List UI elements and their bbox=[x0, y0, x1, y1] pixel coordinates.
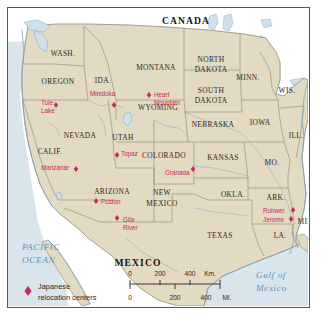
relocation-center-label: Granada bbox=[165, 169, 190, 176]
state-label: MO. bbox=[265, 158, 280, 167]
state-label: ARK. bbox=[267, 193, 286, 202]
state-label: DAKOTA bbox=[195, 65, 228, 74]
country-label-canada: CANADA bbox=[162, 15, 210, 26]
state-label: NEBRASKA bbox=[192, 120, 235, 129]
scale-km-unit: Km. bbox=[204, 270, 216, 277]
state-label: MINN. bbox=[236, 73, 259, 82]
state-label: ARIZONA bbox=[94, 187, 130, 196]
relocation-center-label: Gila bbox=[123, 216, 135, 223]
relocation-center-label: Manzanar bbox=[41, 164, 69, 171]
legend-label-line2: relocation centers bbox=[38, 293, 97, 302]
scale-mi-tick-200: 200 bbox=[169, 294, 180, 301]
relocation-center-label: Rohwer bbox=[263, 207, 285, 214]
relocation-center-label: Jerome bbox=[263, 216, 284, 223]
legend-label-line1: Japanese bbox=[38, 282, 70, 291]
state-label: KANSAS bbox=[207, 153, 239, 162]
state-label: LA. bbox=[274, 231, 287, 240]
relocation-center-label: Heart bbox=[154, 91, 170, 98]
state-label: NORTH bbox=[198, 55, 225, 64]
relocation-center-label: Poston bbox=[101, 198, 121, 205]
state-label: ILL. bbox=[289, 131, 304, 140]
state-label: MONTANA bbox=[136, 63, 176, 72]
ocean-label-gulf-line1: Gulf of bbox=[256, 270, 287, 280]
relocation-center-label: River bbox=[123, 224, 138, 231]
state-label: DAKOTA bbox=[195, 96, 228, 105]
ocean-label-pacific-line2: OCEAN bbox=[22, 255, 55, 265]
state-label: TEXAS bbox=[207, 231, 233, 240]
country-label-mexico: MEXICO bbox=[114, 257, 161, 268]
state-label: NEVADA bbox=[64, 131, 97, 140]
state-label: UTAH bbox=[112, 133, 134, 142]
state-label: IOWA bbox=[250, 118, 271, 127]
scale-mi-unit: Mi. bbox=[223, 294, 232, 301]
relocation-center-label: Lake bbox=[41, 107, 55, 114]
scale-mi-tick-0: 0 bbox=[128, 294, 132, 301]
ocean-label-pacific-line1: PACIFIC bbox=[21, 242, 60, 252]
scale-mi-tick-400: 400 bbox=[200, 294, 211, 301]
state-label: NEW bbox=[153, 188, 171, 197]
relocation-center-label: Topaz bbox=[121, 150, 138, 158]
map-frame: CANADA MEXICO PACIFIC OCEAN Gulf of Mexi… bbox=[7, 7, 310, 308]
relocation-center-label: Minidoka bbox=[90, 90, 116, 97]
state-label: IDA. bbox=[95, 76, 111, 85]
state-label: WIS. bbox=[279, 86, 296, 95]
scale-km-tick-0: 0 bbox=[128, 270, 132, 277]
state-label: SOUTH bbox=[198, 86, 225, 95]
scale-km-tick-400: 400 bbox=[184, 270, 195, 277]
state-label: MEXICO bbox=[146, 199, 178, 208]
scale-km-tick-200: 200 bbox=[154, 270, 165, 277]
state-label: MISS. bbox=[298, 217, 308, 226]
relocation-center-label: Mountain bbox=[154, 99, 180, 106]
state-label: WASH. bbox=[51, 49, 76, 58]
ocean-label-gulf-line2: Mexico bbox=[255, 283, 287, 293]
state-label: CALIF. bbox=[38, 147, 63, 156]
map-graphic: CANADA MEXICO PACIFIC OCEAN Gulf of Mexi… bbox=[8, 8, 308, 306]
state-label: OREGON bbox=[42, 77, 75, 86]
state-label: OKLA. bbox=[221, 190, 245, 199]
relocation-center-label: Tule bbox=[41, 99, 54, 106]
state-label: COLORADO bbox=[142, 151, 186, 160]
map-container: CANADA MEXICO PACIFIC OCEAN Gulf of Mexi… bbox=[0, 0, 328, 327]
